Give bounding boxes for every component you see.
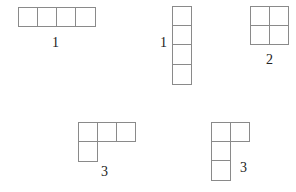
grid-cell	[230, 122, 250, 142]
grid-cell	[211, 160, 231, 181]
grid-cell	[116, 122, 136, 142]
grid-cell	[37, 7, 57, 27]
grid-cell	[172, 25, 192, 45]
grid-cell	[211, 141, 231, 161]
shape-label: 1	[160, 36, 167, 50]
grid-cell	[172, 64, 192, 85]
grid-cell	[250, 6, 270, 26]
grid-cell	[172, 6, 192, 26]
grid-cell	[75, 7, 96, 27]
grid-cell	[269, 6, 289, 26]
shape-label: 2	[266, 53, 273, 67]
grid-cell	[78, 141, 98, 162]
grid-cell	[269, 25, 289, 45]
shape-label: 3	[101, 165, 108, 179]
grid-cell	[78, 122, 98, 142]
grid-cell	[56, 7, 76, 27]
grid-cell	[18, 7, 38, 27]
grid-cell	[211, 122, 231, 142]
shape-label: 1	[52, 36, 59, 50]
grid-cell	[172, 44, 192, 65]
shape-label: 3	[240, 161, 247, 175]
grid-cell	[250, 25, 270, 45]
grid-cell	[97, 122, 117, 142]
